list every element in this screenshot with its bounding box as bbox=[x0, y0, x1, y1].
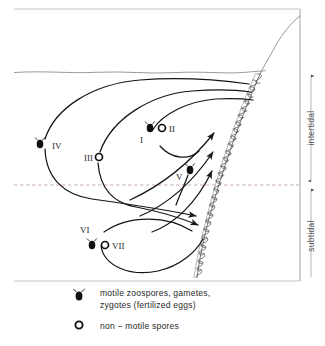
legend-motile-line1: motile zoospores, gametes, bbox=[100, 288, 210, 298]
algal-turf-texture bbox=[196, 74, 261, 277]
motile-spore-icon-IV bbox=[35, 137, 45, 148]
legend-motile-line2: zygotes (fertilized eggs) bbox=[100, 300, 196, 310]
stage-label-VII: VII bbox=[112, 241, 125, 251]
trajectory-VI-out bbox=[104, 219, 192, 232]
motile-spore-icon-V bbox=[185, 163, 195, 174]
shore-arrow-middle bbox=[140, 152, 213, 216]
non-motile-spore-icon-II bbox=[159, 125, 166, 132]
intertidal-zone-label: intertidal bbox=[306, 110, 316, 145]
stage-label-I: I bbox=[140, 135, 143, 145]
stage-label-IV: IV bbox=[52, 141, 62, 151]
trajectory-III-out bbox=[100, 90, 251, 152]
legend: motile zoospores, gametes, zygotes (fert… bbox=[73, 288, 210, 331]
stage-label-group: IV III I II V VI VII bbox=[52, 124, 183, 251]
legend-non-motile-line1: non − motile spores bbox=[100, 321, 179, 331]
stage-label-V: V bbox=[176, 172, 183, 182]
stage-label-II: II bbox=[169, 124, 175, 134]
zone-scale: intertidal subtidal bbox=[306, 76, 316, 277]
legend-non-motile-spore-icon bbox=[75, 321, 82, 328]
motile-spore-icon-VII bbox=[87, 238, 97, 249]
tidal-zone-diagram: IV III I II V VI VII intertidal subtidal… bbox=[0, 0, 325, 346]
trajectory-III-return bbox=[98, 163, 198, 225]
stage-label-VI: VI bbox=[80, 225, 90, 235]
non-motile-spore-icon-III bbox=[96, 154, 103, 161]
water-surface-line bbox=[14, 71, 266, 73]
shoreline-slope bbox=[194, 16, 300, 278]
legend-motile-spore-icon bbox=[73, 289, 84, 301]
motile-spore-icon-I bbox=[145, 121, 155, 132]
non-motile-spore-icon-VII bbox=[102, 242, 109, 249]
subtidal-zone-label: subtidal bbox=[306, 220, 316, 252]
trajectory-IV-return bbox=[45, 149, 196, 216]
stage-label-III: III bbox=[84, 153, 93, 163]
trajectory-IV-out bbox=[45, 79, 249, 139]
